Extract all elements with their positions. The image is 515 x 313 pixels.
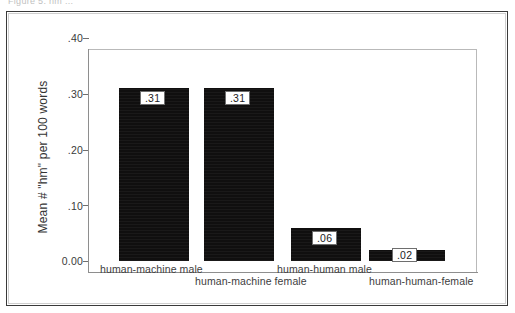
x-axis-label-human-machine-male: human-machine male xyxy=(100,263,203,275)
bar-value-human-human-male: .06 xyxy=(312,231,337,245)
bar-human-machine-male xyxy=(119,88,189,261)
bar-value-human-machine-male: .31 xyxy=(140,91,165,105)
y-axis-tick-text: .10 xyxy=(23,200,83,212)
y-axis-tick-text: .20 xyxy=(23,144,83,156)
y-axis-tick-text: 0.00 xyxy=(23,255,83,267)
y-axis-tick-text: .40 xyxy=(23,32,83,44)
bar-value-human-machine-female: .31 xyxy=(225,91,250,105)
y-axis-tick-label-000: 0.00 xyxy=(21,255,83,267)
figure-caption-sliver: Figure 5. hm ... xyxy=(8,0,128,8)
x-axis-label-human-human-female: human-human-female xyxy=(369,275,474,287)
figure-frame: Mean # "hm" per 100 words .40 .30 .20 .1… xyxy=(6,11,508,306)
y-axis-tick-mark xyxy=(83,38,89,39)
y-axis-tick-label-030: .30 xyxy=(21,88,83,100)
y-axis-line xyxy=(88,49,89,273)
bar-human-machine-female xyxy=(204,88,274,261)
x-axis-label-human-machine-female: human-machine female xyxy=(195,275,307,287)
x-axis-label-human-human-male: human-human male xyxy=(277,263,372,275)
y-axis-tick-label-040: .40 xyxy=(21,32,83,44)
bar-value-human-human-female: .02 xyxy=(392,248,417,262)
y-axis-tick-text: .30 xyxy=(23,88,83,100)
y-axis-tick-label-010: .10 xyxy=(21,200,83,212)
y-axis-tick-label-020: .20 xyxy=(21,144,83,156)
y-axis-title: Mean # "hm" per 100 words xyxy=(36,47,50,267)
